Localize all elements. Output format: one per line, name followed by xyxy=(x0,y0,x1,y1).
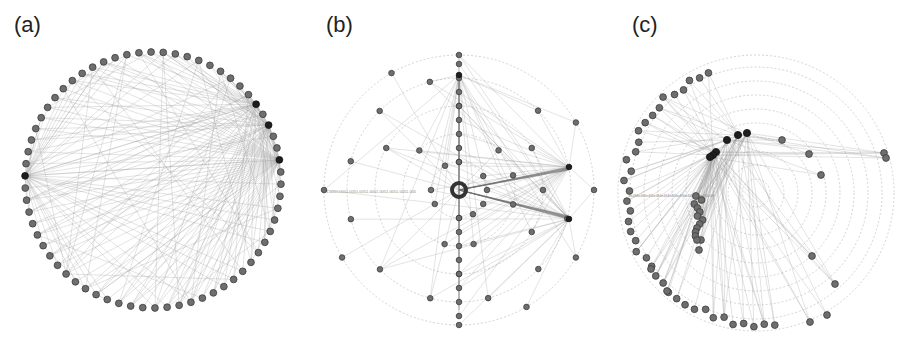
graph-node xyxy=(529,145,535,151)
nodes xyxy=(621,69,890,330)
graph-node xyxy=(456,257,462,263)
graph-node xyxy=(682,301,689,308)
graph-node xyxy=(112,54,119,61)
graph-node xyxy=(671,91,678,98)
graph-node xyxy=(230,276,237,283)
graph-node xyxy=(220,283,227,290)
clustered-radial-network-graph: 1e4f4e4f4e4f4e4f4e4f4e4f4e4f4e4f4e4f4e4f… xyxy=(618,55,894,331)
graph-node xyxy=(100,59,107,66)
graph-node xyxy=(277,169,284,176)
graph-node xyxy=(632,148,639,155)
graph-node xyxy=(643,254,650,261)
graph-node xyxy=(635,139,642,146)
graph-node xyxy=(456,243,462,249)
graph-node xyxy=(237,83,244,90)
graph-node xyxy=(456,103,462,109)
graph-node xyxy=(456,52,462,58)
graph-node xyxy=(456,159,462,165)
circular-network-graph xyxy=(22,49,285,312)
graph-node xyxy=(188,299,195,306)
graph-node xyxy=(627,207,634,214)
graph-node xyxy=(642,119,649,126)
graph-node xyxy=(148,49,155,56)
graph-node xyxy=(510,202,516,208)
graph-node xyxy=(456,271,462,277)
graph-node xyxy=(807,319,814,326)
network-graphs: 1.0051.0051.0051.0051.0051.0051.0051.005… xyxy=(0,0,912,349)
graph-node xyxy=(627,228,634,235)
graph-node xyxy=(210,289,217,296)
edges xyxy=(624,73,886,327)
graph-node xyxy=(172,51,179,58)
graph-node xyxy=(442,241,448,247)
graph-node xyxy=(227,75,234,82)
graph-node xyxy=(29,220,36,227)
graph-node xyxy=(26,209,33,216)
graph-node xyxy=(694,237,701,244)
graph-node xyxy=(484,187,490,193)
graph-node xyxy=(44,104,51,111)
graph-node xyxy=(69,77,76,84)
graph-node xyxy=(456,229,462,235)
graph-node xyxy=(660,280,667,287)
graph-node xyxy=(417,148,423,154)
graph-node xyxy=(22,185,29,192)
graph-node xyxy=(46,252,53,259)
graph-node xyxy=(680,86,687,93)
graph-node xyxy=(427,79,433,85)
graph-node xyxy=(702,306,709,313)
graph-node xyxy=(377,267,383,273)
graph-node xyxy=(628,168,635,175)
graph-node xyxy=(818,172,825,179)
graph-node xyxy=(34,232,41,239)
graph-node xyxy=(591,187,597,193)
graph-node xyxy=(79,70,86,77)
graph-node xyxy=(25,148,32,155)
hub-node xyxy=(743,129,750,136)
graph-node xyxy=(259,111,266,118)
graph-node xyxy=(270,133,277,140)
graph-node xyxy=(649,112,656,119)
graph-node xyxy=(23,197,30,204)
graph-node xyxy=(389,70,395,76)
graph-node xyxy=(632,237,639,244)
graph-node xyxy=(485,295,491,301)
graph-node xyxy=(207,62,214,69)
graph-node xyxy=(456,285,462,291)
graph-node xyxy=(540,187,546,193)
hub-node xyxy=(566,216,572,222)
graph-node xyxy=(633,248,640,255)
graph-node xyxy=(152,305,159,312)
graph-node xyxy=(824,312,831,319)
graph-node xyxy=(696,75,703,82)
graph-node xyxy=(348,216,354,222)
graph-node xyxy=(750,323,757,330)
graph-node xyxy=(510,173,516,179)
graph-node xyxy=(648,266,655,273)
graph-node xyxy=(339,255,345,261)
graph-node xyxy=(524,304,530,310)
graph-node xyxy=(265,122,272,129)
graph-node xyxy=(664,288,671,295)
graph-node xyxy=(277,193,284,200)
graph-node xyxy=(496,148,502,154)
graph-node xyxy=(60,85,67,92)
graph-node xyxy=(248,259,255,266)
graph-node xyxy=(63,271,70,278)
graph-node xyxy=(276,156,283,163)
graph-node xyxy=(691,306,698,313)
graph-node xyxy=(456,61,462,67)
graph-node xyxy=(809,253,816,260)
graph-node xyxy=(104,296,111,303)
graph-node xyxy=(383,145,389,151)
graph-node xyxy=(660,94,667,101)
graph-node xyxy=(135,49,142,56)
graph-node xyxy=(377,108,383,114)
graph-node xyxy=(195,57,202,64)
hub-node xyxy=(734,131,741,138)
graph-node xyxy=(428,187,434,193)
graph-node xyxy=(536,266,542,272)
graph-node xyxy=(730,321,737,328)
graph-node xyxy=(22,172,29,179)
graph-node xyxy=(253,101,260,108)
